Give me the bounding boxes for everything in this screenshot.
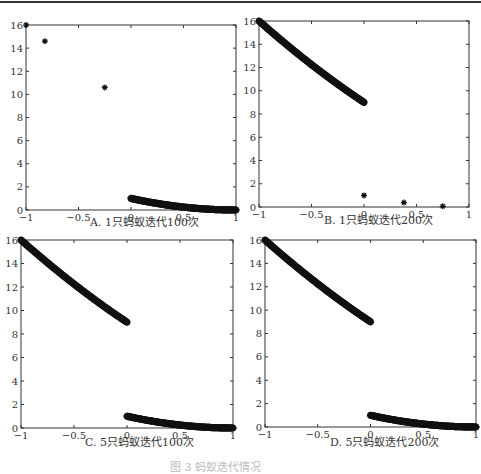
y-tick-label: 12	[243, 62, 256, 73]
y-tick-label: 6	[250, 132, 256, 143]
y-tick-label: 0	[17, 205, 23, 216]
y-tick-label: 6	[256, 351, 262, 362]
axes-frame	[26, 25, 236, 210]
y-tick-label: 14	[249, 258, 262, 269]
data-series	[17, 236, 130, 325]
scatter-plot: −1−0.500.510246810121416	[239, 234, 481, 443]
data-series	[23, 22, 108, 90]
y-tick-label: 16	[243, 16, 256, 27]
scatter-plot: −1−0.500.510246810121416	[0, 19, 250, 226]
plot-caption-c: C. 5只蚂蚁迭代100次	[85, 433, 194, 449]
y-tick-label: 8	[256, 328, 262, 339]
x-tick-label: −0.5	[62, 430, 86, 441]
y-tick-label: 4	[256, 375, 262, 386]
y-tick-label: 16	[5, 235, 18, 246]
y-tick-label: 4	[17, 158, 23, 169]
data-series	[127, 195, 239, 214]
y-tick-label: 10	[5, 305, 18, 316]
data-series	[261, 236, 374, 325]
y-tick-label: 2	[12, 399, 18, 410]
y-tick-label: 8	[17, 112, 23, 123]
y-tick-label: 16	[249, 235, 262, 246]
plot-caption-d: D. 5只蚂蚁迭代200次	[330, 433, 439, 449]
y-tick-label: 8	[12, 329, 18, 340]
x-tick-label: −0.5	[306, 429, 330, 440]
x-tick-label: 1	[473, 429, 479, 440]
y-tick-label: 10	[243, 85, 256, 96]
y-tick-label: 6	[17, 135, 23, 146]
plot-caption-b: B. 1只蚂蚁迭代200次	[324, 211, 433, 227]
data-series	[255, 17, 367, 106]
x-tick-label: −0.5	[299, 209, 323, 220]
y-tick-label: 2	[250, 178, 256, 189]
y-tick-label: 4	[250, 155, 256, 166]
data-series	[367, 412, 480, 431]
x-tick-label: 1	[230, 430, 236, 441]
y-tick-label: 8	[250, 109, 256, 120]
y-tick-label: 2	[17, 181, 23, 192]
y-tick-label: 0	[256, 422, 262, 433]
y-tick-label: 12	[10, 66, 23, 77]
y-tick-label: 10	[10, 89, 23, 100]
y-tick-label: 6	[12, 352, 18, 363]
scatter-plot: −1−0.500.510246810121416	[233, 15, 481, 223]
y-tick-label: 12	[249, 281, 262, 292]
plot-caption-a: A. 1只蚂蚁迭代100次	[90, 213, 199, 229]
y-tick-label: 12	[5, 282, 18, 293]
y-tick-label: 14	[10, 43, 23, 54]
y-tick-label: 10	[249, 305, 262, 316]
y-tick-label: 2	[256, 398, 262, 409]
y-tick-label: 16	[10, 20, 23, 31]
x-tick-label: 1	[466, 209, 472, 220]
y-tick-label: 0	[12, 423, 18, 434]
top-rule	[0, 1, 481, 3]
y-tick-label: 14	[5, 258, 18, 269]
figure-caption: 图 3 蚂蚁迭代情况	[170, 458, 261, 474]
y-tick-label: 14	[243, 39, 256, 50]
y-tick-label: 0	[250, 202, 256, 213]
data-series	[123, 413, 236, 432]
scatter-plot: −1−0.500.510246810121416	[0, 234, 247, 444]
x-tick-label: −0.5	[66, 212, 90, 223]
y-tick-label: 4	[12, 376, 18, 387]
